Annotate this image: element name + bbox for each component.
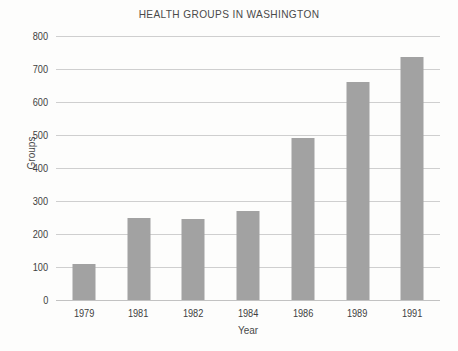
x-axis-label: Year bbox=[56, 325, 440, 336]
gridline bbox=[56, 300, 440, 301]
y-axis-tick-label: 500 bbox=[32, 130, 49, 141]
chart-title: HEALTH GROUPS IN WASHINGTON bbox=[18, 8, 439, 20]
bar-group: 1981 bbox=[112, 36, 166, 300]
bar-group: 1991 bbox=[385, 36, 439, 300]
bar-group: 1982 bbox=[166, 36, 220, 300]
bar bbox=[291, 138, 314, 300]
bar-group: 1989 bbox=[331, 36, 385, 300]
plot-area: 0100200300400500600700800 19791981198219… bbox=[56, 36, 440, 300]
y-axis-tick-label: 100 bbox=[32, 262, 49, 273]
y-axis-tick-label: 700 bbox=[32, 64, 49, 75]
bar-chart: HEALTH GROUPS IN WASHINGTON Groups 01002… bbox=[0, 0, 458, 351]
bar bbox=[182, 219, 205, 301]
y-axis-label: Groups bbox=[26, 118, 37, 188]
y-axis-tick-label: 800 bbox=[32, 31, 49, 42]
x-axis-tick-label: 1984 bbox=[221, 308, 275, 319]
bar bbox=[346, 82, 369, 300]
y-axis-tick-label: 200 bbox=[32, 229, 49, 240]
y-axis-tick-label: 300 bbox=[32, 196, 49, 207]
y-axis-tick-label: 400 bbox=[32, 163, 49, 174]
x-axis-tick-label: 1982 bbox=[166, 308, 220, 319]
bar bbox=[237, 211, 260, 300]
bar-group: 1979 bbox=[57, 36, 111, 300]
y-axis-tick-label: 600 bbox=[32, 97, 49, 108]
x-axis-tick-label: 1979 bbox=[57, 308, 111, 319]
bar-group: 1984 bbox=[221, 36, 275, 300]
bar bbox=[127, 218, 150, 300]
x-axis-tick-label: 1989 bbox=[331, 308, 385, 319]
x-axis-tick-label: 1991 bbox=[385, 308, 439, 319]
x-axis-tick-label: 1986 bbox=[276, 308, 330, 319]
bar bbox=[72, 264, 95, 300]
bar bbox=[401, 57, 424, 300]
bar-group: 1986 bbox=[276, 36, 330, 300]
bar-series: 1979198119821984198619891991 bbox=[56, 36, 440, 300]
x-axis-tick-label: 1981 bbox=[112, 308, 166, 319]
y-axis-tick-label: 0 bbox=[43, 295, 49, 306]
